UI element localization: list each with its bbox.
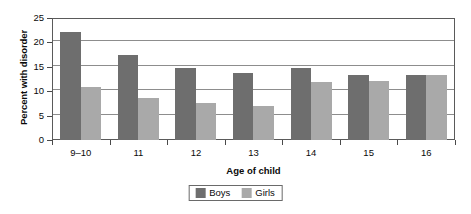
bar-boys-9–10 [60,32,81,140]
bar-girls-9–10 [81,87,102,140]
y-axis-title: Percent with disorder [18,8,29,148]
x-tick-label: 15 [339,147,399,158]
bar-girls-11 [138,98,159,140]
x-tick-mark [52,140,53,145]
bar-group [167,18,225,140]
x-tick-mark [340,140,341,145]
x-tick-label: 11 [108,147,168,158]
bar-chart: Percent with disorder 0510152025 9–10111… [0,0,471,214]
legend-swatch-boys-icon [195,188,205,198]
legend-item-girls: Girls [241,188,275,198]
y-tick-label: 25 [4,12,44,23]
bar-group [397,18,455,140]
x-tick-mark [110,140,111,145]
bar-group [340,18,398,140]
x-tick-mark [455,140,456,145]
x-tick-label: 13 [224,147,284,158]
bar-girls-14 [311,82,332,140]
x-tick-mark [167,140,168,145]
y-tick-label: 20 [4,36,44,47]
x-tick-mark [397,140,398,145]
y-tick-label: 15 [4,61,44,72]
bar-boys-16 [406,75,427,140]
legend-swatch-girls-icon [241,188,251,198]
bar-group [225,18,283,140]
bar-boys-13 [233,73,254,140]
bar-series-layer [52,18,455,140]
legend-item-boys: Boys [195,188,230,198]
bar-group [282,18,340,140]
bar-group [110,18,168,140]
bar-girls-13 [253,106,274,140]
bar-boys-12 [175,68,196,140]
x-tick-label: 9–10 [51,147,111,158]
x-tick-label: 14 [281,147,341,158]
x-axis-title: Age of child [52,165,455,176]
bar-girls-12 [196,103,217,140]
legend-label: Girls [255,188,275,198]
chart-legend: BoysGirls [188,185,283,201]
x-tick-mark [225,140,226,145]
x-tick-mark [282,140,283,145]
bar-boys-15 [348,75,369,140]
bar-boys-11 [118,55,139,140]
bar-group [52,18,110,140]
x-tick-label: 12 [166,147,226,158]
bar-boys-14 [291,68,312,140]
legend-label: Boys [209,188,230,198]
x-tick-label: 16 [396,147,456,158]
y-tick-label: 5 [4,110,44,121]
bar-girls-16 [426,75,447,140]
y-tick-label: 10 [4,85,44,96]
bar-girls-15 [369,81,390,140]
y-tick-label: 0 [4,134,44,145]
